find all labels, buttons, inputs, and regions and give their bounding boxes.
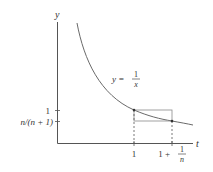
point-at-1 xyxy=(133,109,136,112)
y-tick-label-1: 1 xyxy=(46,106,51,116)
x-tick-frac-numerator: 1 xyxy=(180,145,184,154)
y-tick-label-n-over-n-plus-1: n/(n + 1) xyxy=(20,117,53,127)
y-axis-label: y xyxy=(54,9,60,20)
curve-label-lhs: y = xyxy=(111,74,124,84)
curve-label-numerator: 1 xyxy=(134,70,138,79)
x-tick-label-1: 1 xyxy=(132,149,137,159)
hyperbola-diagram: y t 1 n/(n + 1) 1 1 + 1 n y = 1 x xyxy=(0,0,213,172)
x-tick-frac-denominator: n xyxy=(180,155,184,164)
x-axis-label: t xyxy=(196,138,199,149)
curve-label-denominator: x xyxy=(133,80,138,89)
point-at-1-plus-1-over-n xyxy=(171,120,174,123)
x-tick-label-prefix: 1 + xyxy=(158,149,170,159)
upper-rectangle xyxy=(134,110,172,121)
